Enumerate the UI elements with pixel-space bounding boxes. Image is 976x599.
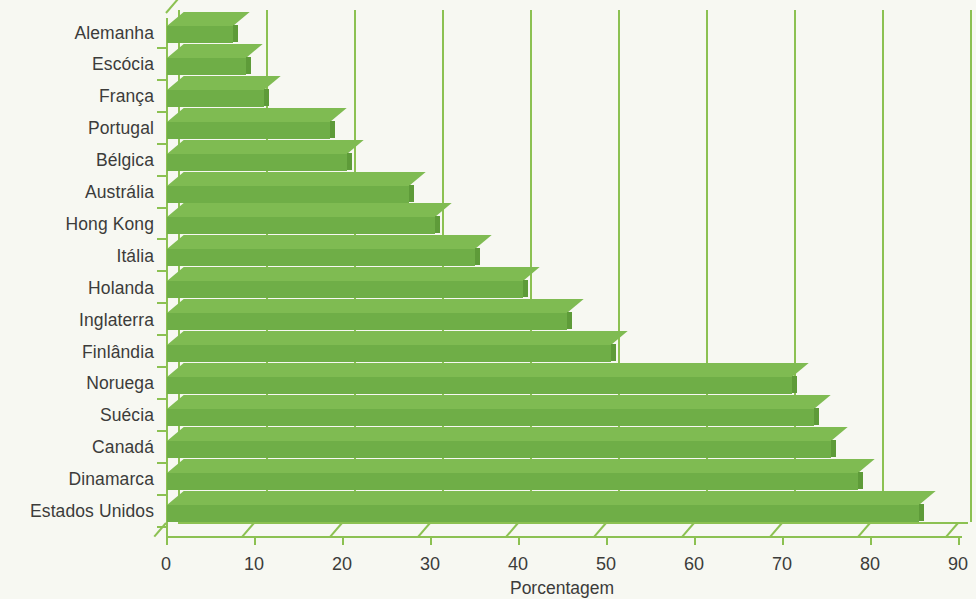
bar-portugal [167, 122, 330, 139]
bar-top-face [167, 235, 492, 249]
y-tick [157, 143, 166, 145]
bar-end-cap [409, 185, 414, 202]
y-tick [157, 111, 166, 113]
bar-end-cap [475, 248, 480, 265]
bar-itália [167, 249, 475, 266]
x-axis-tick-label: 30 [390, 554, 470, 574]
x-tick-30 [430, 536, 432, 545]
x-axis-tick-label: 20 [302, 554, 382, 574]
y-tick [157, 494, 166, 496]
x-axis-tick-label: 10 [214, 554, 294, 574]
bar-end-cap [611, 344, 616, 361]
bar-austrália [167, 186, 409, 203]
bar-top-face [167, 395, 830, 409]
bar-top-face [167, 459, 874, 473]
x-tick-40 [518, 536, 520, 545]
bar-holanda [167, 281, 523, 298]
bar-end-cap [347, 153, 352, 170]
x-axis-tick-label: 50 [566, 554, 646, 574]
bar-end-cap [858, 472, 863, 489]
y-tick [157, 366, 166, 368]
y-tick [157, 238, 166, 240]
bar-canadá [167, 441, 831, 458]
x-tick-80 [870, 536, 872, 545]
bar-dinamarca [167, 473, 858, 490]
x-axis-tick-label: 0 [126, 554, 206, 574]
x-tick-60 [694, 536, 696, 545]
x-axis-title: Porcentagem [166, 578, 958, 598]
bar-end-cap [792, 376, 797, 393]
x-axis-line-back [178, 522, 968, 524]
x-axis-tick-label: 90 [918, 554, 976, 574]
y-tick [157, 398, 166, 400]
bar-top-face [167, 12, 250, 26]
bar-frança [167, 90, 264, 107]
bar-top-face [167, 363, 808, 377]
bar-top-face [167, 299, 584, 313]
bar-end-cap [919, 504, 924, 521]
x-axis-tick-label: 70 [742, 554, 822, 574]
bar-noruega [167, 377, 792, 394]
y-tick [157, 175, 166, 177]
bar-end-cap [523, 280, 528, 297]
bar-top-face [167, 172, 426, 186]
bar-hong-kong [167, 217, 435, 234]
bar-suécia [167, 409, 814, 426]
y-tick [157, 462, 166, 464]
gridline-x-80 [882, 10, 884, 522]
y-tick [157, 207, 166, 209]
y-tick [157, 79, 166, 81]
bar-top-face [167, 491, 936, 505]
bar-finlândia [167, 345, 611, 362]
bar-end-cap [831, 440, 836, 457]
x-tick-10 [254, 536, 256, 545]
bar-escócia [167, 58, 246, 75]
bar-bélgica [167, 154, 347, 171]
y-tick [157, 430, 166, 432]
bar-end-cap [567, 312, 572, 329]
bar-alemanha [167, 26, 233, 43]
bar-top-face [167, 76, 280, 90]
bar-end-cap [264, 89, 269, 106]
bar-inglaterra [167, 313, 567, 330]
bar-top-face [167, 140, 364, 154]
y-tick [157, 47, 166, 49]
bar-estados-unidos [167, 505, 919, 522]
y-tick [157, 334, 166, 336]
x-tick-0 [166, 536, 168, 545]
bar-top-face [167, 203, 452, 217]
x-axis-tick-label: 60 [654, 554, 734, 574]
bar-top-face [167, 108, 346, 122]
bar-end-cap [435, 216, 440, 233]
bar-top-face [167, 44, 263, 58]
x-axis-tick-label: 40 [478, 554, 558, 574]
y-tick [157, 270, 166, 272]
x-tick-90 [958, 536, 960, 545]
bar-end-cap [246, 57, 251, 74]
gridline-x-90 [970, 10, 972, 522]
x-tick-70 [782, 536, 784, 545]
bar-end-cap [814, 408, 819, 425]
bar-top-face [167, 331, 628, 345]
bar-top-face [167, 427, 848, 441]
x-tick-20 [342, 536, 344, 545]
bar-top-face [167, 267, 540, 281]
x-tick-50 [606, 536, 608, 545]
axis-depth-connector [165, 0, 179, 14]
bar-end-cap [233, 25, 238, 42]
x-axis-line [166, 536, 962, 538]
y-tick [157, 302, 166, 304]
bar-end-cap [330, 121, 335, 138]
x-axis-tick-label: 80 [830, 554, 910, 574]
